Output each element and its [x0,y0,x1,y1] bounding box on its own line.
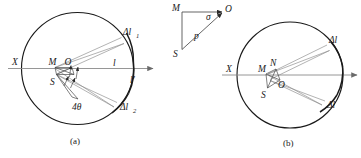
panel-a-arc-l-label: l [113,58,116,68]
panel-b-axis-label: X [225,64,233,74]
panel-a-point-M: M [48,57,58,67]
panel-a-delta-l-1-subscript: 1 [136,32,139,39]
panel-a-lower-ray-3 [57,75,115,108]
panel-b-point-S: S [261,90,266,100]
panel-b-delta-l-upper: Δl [328,35,338,45]
panel-b-point-M: M [257,64,267,74]
figure-svg: X M S O Δl 1 Δl 2 l l′ 4θ (a) M O S σ p [0,0,361,158]
panel-b-delta-l-lower: Δl [326,100,336,110]
inset-angle-sigma: σ [206,12,211,22]
panel-a-axis-label: X [11,57,19,67]
panel-a: X M S O Δl 1 Δl 2 l l′ 4θ (a) [8,13,153,147]
panel-a-angle-4theta: 4θ [72,102,82,112]
inset-side-label-p: p [193,31,199,41]
inset-vertex-O: O [225,4,232,14]
panel-b-arc-upper [331,42,343,66]
panel-b-point-O: O [278,80,285,90]
panel-b-point-N: N [269,58,277,68]
panel-a-arc-l-prime-label: l′ [130,75,136,85]
inset-vertex-M: M [171,3,181,13]
panel-a-delta-l-2: Δl [119,102,129,112]
panel-b-caption: (b) [283,138,294,148]
panel-b-arc-right [337,66,343,95]
panel-a-point-S: S [50,77,55,87]
panel-a-caption: (a) [70,136,80,146]
panel-a-delta-l-2-subscript: 2 [133,107,137,114]
panel-b-upper-ray-1 [268,45,327,74]
panel-b: X M N O S Δl Δl (b) [222,22,357,148]
panel-a-delta-l-1: Δl [122,27,132,37]
figure-container: X M S O Δl 1 Δl 2 l l′ 4θ (a) M O S σ p [0,0,361,158]
panel-a-lower-ray-2 [57,75,118,103]
inset-side-s-o [182,13,222,50]
inset-triangle-group: M O S σ p [171,3,232,59]
panel-b-seg-m-s [266,74,268,88]
inset-vertex-S: S [173,49,178,59]
panel-b-upper-ray-3 [268,51,330,75]
panel-a-point-O: O [65,57,72,67]
